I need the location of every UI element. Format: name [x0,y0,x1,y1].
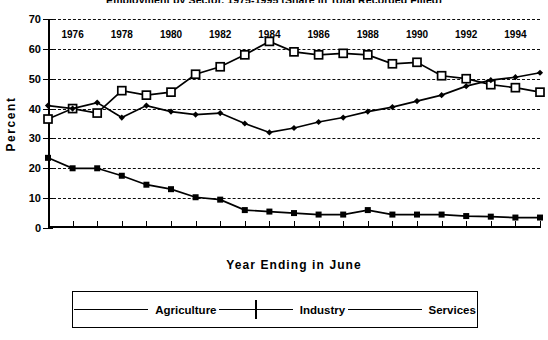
data-point [168,108,174,114]
data-point [192,70,200,78]
y-axis-tick [43,228,53,229]
data-point [340,114,346,120]
data-point [217,197,223,203]
data-point [44,115,52,123]
data-point [291,210,297,216]
data-point [389,104,395,110]
y-axis-tick-label: 40 [29,103,41,115]
data-point [265,37,273,45]
data-point [217,110,223,116]
legend-label-services: Services [429,304,476,316]
data-point [536,88,544,96]
open-square-icon [255,300,257,319]
series-industry [44,37,544,123]
chart-title: Employment by Sector, 1975-1995 (Share i… [0,0,548,3]
data-point [242,207,248,213]
data-point [315,51,323,59]
data-point [119,173,125,179]
y-axis-tick-label: 70 [29,13,41,25]
data-point [389,212,395,218]
data-point [488,214,494,220]
data-point [216,63,224,71]
chart-legend: Agriculture Industry Services [72,291,478,328]
data-point [340,212,346,218]
series-line [48,158,540,218]
data-point [364,51,372,59]
data-point [414,98,420,104]
data-point [167,88,175,96]
data-point [290,48,298,56]
data-point [168,186,174,192]
data-point [266,129,272,135]
data-point [365,207,371,213]
data-point [193,194,199,200]
data-point [316,119,322,125]
data-point [439,212,445,218]
plot-area: 010203040506070 197619781980198219841986… [48,19,540,228]
data-point [142,91,150,99]
y-axis-tick-label: 30 [29,132,41,144]
chart-root: Employment by Sector, 1975-1995 (Share i… [0,0,548,340]
y-axis-tick-label: 50 [29,73,41,85]
data-point [512,215,518,221]
series-agriculture [45,155,543,221]
data-point [537,70,543,76]
x-axis-tick [540,221,541,228]
data-point [462,75,470,83]
data-point [511,84,519,92]
y-axis-tick-label: 10 [29,192,41,204]
data-point [70,165,76,171]
data-point [94,165,100,171]
legend-label-industry: Industry [300,304,345,316]
legend-item-industry[interactable]: Industry [219,303,345,317]
data-point [266,209,272,215]
data-point [512,74,518,80]
data-point [365,108,371,114]
data-point [439,92,445,98]
data-point [463,213,469,219]
data-point [438,72,446,80]
data-point [414,212,420,218]
legend-swatch-industry [219,303,293,317]
data-point [388,60,396,68]
data-point [537,215,543,221]
data-point [242,120,248,126]
data-point [463,83,469,89]
data-point [193,111,199,117]
y-axis-tick-label: 60 [29,43,41,55]
y-axis-tick-label: 20 [29,162,41,174]
data-point [45,155,51,161]
y-axis-label: Percent [4,19,18,228]
series-layer [48,19,540,228]
data-point [413,58,421,66]
y-axis-label-text: Percent [4,96,18,151]
data-point [143,102,149,108]
legend-item-services[interactable]: Services [348,303,476,317]
data-point [339,49,347,57]
data-point [316,212,322,218]
data-point [143,182,149,188]
legend-swatch-agriculture [74,303,148,317]
legend-swatch-services [348,303,422,317]
data-point [291,125,297,131]
data-point [93,109,101,117]
legend-item-agriculture[interactable]: Agriculture [74,303,216,317]
x-axis-label: Year Ending in June [48,258,540,272]
data-point [241,51,249,59]
data-point [118,87,126,95]
legend-label-agriculture: Agriculture [155,304,216,316]
y-axis-tick-label: 0 [35,222,41,234]
